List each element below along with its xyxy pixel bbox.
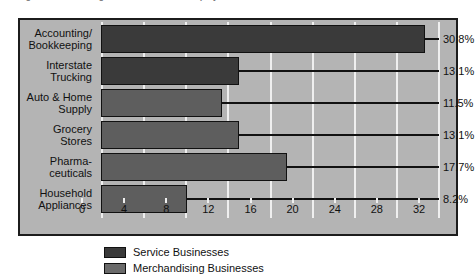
leader-line [222, 102, 439, 104]
axis-tick-label: 8 [163, 203, 169, 215]
axis-tick-label: 0 [79, 203, 85, 215]
bar[interactable] [101, 153, 287, 181]
value-label: 13.1% [443, 129, 474, 141]
figure-title: Figure 5-1 Percentage Return on Owners' … [18, 0, 218, 1]
legend-item[interactable]: Service Businesses [104, 244, 264, 260]
leader-line [425, 38, 439, 40]
axis-tick-label: 28 [371, 203, 383, 215]
leader-line [287, 166, 439, 168]
value-label: 30.8% [443, 33, 474, 45]
leader-line [239, 70, 439, 72]
category-label: Grocery Stores [0, 123, 92, 147]
category-label: Interstate Trucking [0, 59, 92, 83]
legend-label: Merchandising Businesses [133, 262, 264, 274]
legend-label: Service Businesses [133, 246, 229, 258]
bar[interactable] [101, 57, 239, 85]
axis-tick-label: 4 [121, 203, 127, 215]
legend-swatch [104, 247, 126, 258]
axis-tick-label: 20 [287, 203, 299, 215]
chart-legend: Service BusinessesMerchandising Business… [104, 244, 264, 276]
category-label: Pharma- ceuticals [0, 155, 92, 179]
table-row: Grocery Stores13.1% [20, 119, 456, 151]
bar[interactable] [101, 89, 222, 117]
value-label: 13.1% [443, 65, 474, 77]
table-row: Pharma- ceuticals17.7% [20, 151, 456, 183]
bar[interactable] [101, 121, 239, 149]
table-row: Auto & Home Supply11.5% [20, 87, 456, 119]
axis-tick-label: 24 [329, 203, 341, 215]
value-label: 8.2% [443, 193, 468, 205]
table-row: Interstate Trucking13.1% [20, 55, 456, 87]
axis-tick-label: 16 [244, 203, 256, 215]
axis-tick-label: 32 [413, 203, 425, 215]
bar[interactable] [101, 25, 425, 53]
legend-swatch [104, 263, 126, 274]
axis-tick-label: 12 [202, 203, 214, 215]
category-label: Accounting/ Bookkeeping [0, 27, 92, 51]
category-label: Auto & Home Supply [0, 91, 92, 115]
table-row: Accounting/ Bookkeeping30.8% [20, 23, 456, 55]
value-label: 17.7% [443, 161, 474, 173]
value-label: 11.5% [443, 97, 473, 109]
x-axis: 048121620242832 [81, 198, 418, 216]
legend-item[interactable]: Merchandising Businesses [104, 260, 264, 276]
leader-line [239, 134, 439, 136]
